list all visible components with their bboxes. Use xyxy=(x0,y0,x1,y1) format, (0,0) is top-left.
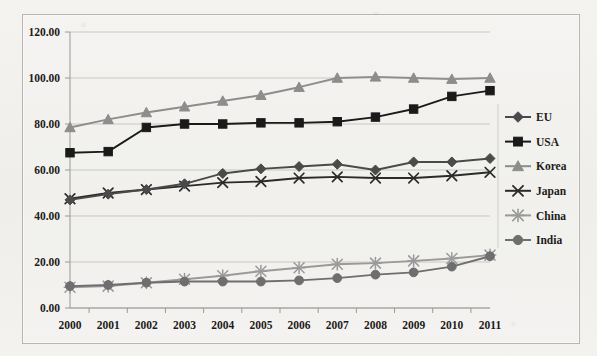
x-axis-tick-label: 2009 xyxy=(402,319,425,331)
series-line xyxy=(70,172,490,198)
data-point-marker xyxy=(448,92,456,100)
data-point-marker xyxy=(409,105,417,113)
data-point-marker xyxy=(257,119,265,127)
data-point-marker xyxy=(142,123,150,131)
data-point-marker xyxy=(332,159,342,169)
data-point-marker xyxy=(512,209,524,221)
data-point-marker xyxy=(180,120,188,128)
data-point-marker xyxy=(219,120,227,128)
data-point-marker xyxy=(257,277,266,286)
data-point-marker xyxy=(104,281,113,290)
series-line xyxy=(70,91,490,153)
data-point-marker xyxy=(142,278,151,287)
y-axis-tick-label: 60.00 xyxy=(34,164,60,176)
x-axis-tick-label: 2005 xyxy=(249,319,272,331)
y-axis-tick-label: 40.00 xyxy=(34,210,60,222)
data-point-marker xyxy=(514,137,523,146)
y-axis-tick-label: 20.00 xyxy=(34,256,60,268)
grid-lines xyxy=(70,32,490,308)
series-japan xyxy=(65,168,495,204)
data-point-marker xyxy=(486,86,494,94)
data-point-marker xyxy=(513,112,524,123)
data-point-marker xyxy=(513,235,522,244)
data-point-marker xyxy=(66,282,75,291)
y-axis-tick-label: 120.00 xyxy=(28,26,60,38)
x-axis-tick-label: 2004 xyxy=(211,319,234,331)
data-point-marker xyxy=(370,257,382,269)
legend-item-label: India xyxy=(536,234,562,246)
y-axis-tick-label: 0.00 xyxy=(40,302,60,314)
data-point-marker xyxy=(104,147,112,155)
legend-item-korea[interactable]: Korea xyxy=(505,160,567,172)
x-axis-tick-label: 2010 xyxy=(440,319,463,331)
legend-item-label: USA xyxy=(536,136,560,148)
x-axis-tick-label: 2006 xyxy=(288,319,311,331)
legend-item-china[interactable]: China xyxy=(505,209,566,221)
legend-item-label: China xyxy=(536,210,566,222)
data-point-marker xyxy=(256,164,266,174)
x-axis-tick-label: 2011 xyxy=(479,319,502,331)
data-point-marker xyxy=(333,274,342,283)
legend-item-india[interactable]: India xyxy=(505,234,562,246)
series-line xyxy=(70,77,490,128)
data-point-marker xyxy=(409,157,419,167)
line-chart: 0.0020.0040.0060.0080.00100.00120.00 200… xyxy=(0,0,597,356)
x-axis-tick-label: 2003 xyxy=(173,319,196,331)
x-axis-tick-label: 2007 xyxy=(326,319,349,331)
data-point-marker xyxy=(295,119,303,127)
data-point-marker xyxy=(180,277,189,286)
data-point-marker xyxy=(486,252,495,261)
data-point-marker xyxy=(255,265,267,277)
y-axis-tick-label: 100.00 xyxy=(28,72,60,84)
x-axis-tick-marks xyxy=(89,308,471,313)
data-point-marker xyxy=(293,262,305,274)
data-point-marker xyxy=(371,270,380,279)
data-point-marker xyxy=(447,157,457,167)
legend-item-label: EU xyxy=(536,111,553,123)
y-axis-tick-label: 80.00 xyxy=(34,118,60,130)
x-axis-tick-label: 2002 xyxy=(135,319,158,331)
x-axis-tick-label: 2008 xyxy=(364,319,387,331)
data-point-marker xyxy=(408,255,420,267)
legend-item-label: Japan xyxy=(536,185,567,198)
data-point-marker xyxy=(66,149,74,157)
legend-item-eu[interactable]: EU xyxy=(505,111,553,123)
x-axis-tick-label: 2000 xyxy=(59,319,82,331)
legend-item-label: Korea xyxy=(536,160,567,172)
chart-legend: EUUSAKoreaJapanChinaIndia xyxy=(498,104,567,248)
x-axis-tick-labels: 2000200120022003200420052006200720082009… xyxy=(59,319,502,331)
data-point-marker xyxy=(485,154,495,164)
data-point-marker xyxy=(218,277,227,286)
data-series-group xyxy=(64,72,496,293)
data-point-marker xyxy=(333,118,341,126)
data-point-marker xyxy=(409,268,418,277)
x-axis-tick-label: 2001 xyxy=(97,319,120,331)
data-point-marker xyxy=(295,276,304,285)
legend-item-usa[interactable]: USA xyxy=(505,136,560,148)
series-usa xyxy=(66,86,494,157)
series-china xyxy=(64,249,496,293)
legend-item-japan[interactable]: Japan xyxy=(505,185,567,198)
y-axis-tick-labels: 0.0020.0040.0060.0080.00100.00120.00 xyxy=(28,26,70,314)
data-point-marker xyxy=(371,113,379,121)
data-point-marker xyxy=(332,259,344,271)
data-point-marker xyxy=(447,262,456,271)
